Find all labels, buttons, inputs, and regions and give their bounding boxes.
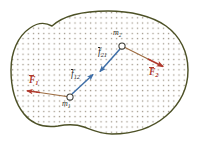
particle-label-m2: m2 [113, 29, 121, 38]
blob-shape-group [11, 11, 188, 134]
force-label-f21: f21 [98, 48, 107, 58]
blob-fill [11, 11, 188, 134]
force-label-F1-symbol: F [29, 76, 35, 86]
particle-label-m1-subscript: 1 [68, 103, 71, 109]
physics-figure: m1 m2 F1 F2 f12 f21 [0, 0, 198, 144]
particle-label-m1: m1 [62, 100, 70, 109]
force-label-f12-subscript: 12 [74, 73, 80, 80]
force-label-f12-symbol: f [71, 70, 74, 80]
force-label-f21-subscript: 21 [101, 51, 107, 58]
force-label-F2: F2 [149, 68, 158, 78]
force-label-F2-symbol: F [149, 68, 155, 78]
particle-m2-marker [119, 43, 125, 49]
force-label-f21-symbol: f [98, 48, 101, 58]
force-label-F1-subscript: 1 [35, 79, 38, 86]
force-label-F2-subscript: 2 [155, 71, 158, 78]
particle-label-m2-subscript: 2 [119, 32, 122, 38]
force-label-F1: F1 [29, 76, 38, 86]
figure-canvas [0, 0, 198, 144]
force-label-f12: f12 [71, 70, 80, 80]
